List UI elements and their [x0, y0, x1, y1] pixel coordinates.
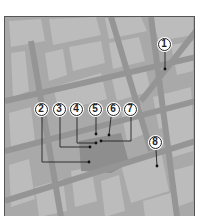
callout-marker-2: 2: [35, 103, 48, 116]
callout-marker-6: 6: [107, 103, 120, 116]
callout-marker-5: 5: [89, 103, 102, 116]
callout-marker-4: 4: [70, 103, 83, 116]
callout-marker-3: 3: [53, 103, 66, 116]
callout-marker-8: 8: [149, 136, 162, 149]
callout-marker-7: 7: [124, 103, 137, 116]
callout-marker-1: 1: [158, 38, 171, 51]
